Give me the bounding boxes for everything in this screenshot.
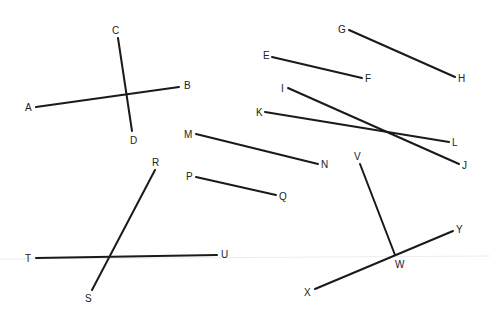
segment-kl (265, 112, 449, 142)
point-label-a: A (25, 102, 32, 113)
segment-mn (196, 134, 318, 164)
segment-ef (272, 57, 362, 78)
point-label-x: X (304, 287, 311, 298)
point-label-c: C (112, 25, 119, 36)
point-label-h: H (458, 73, 465, 84)
segment-ab (36, 87, 179, 107)
point-label-w: W (395, 259, 405, 270)
point-label-b: B (184, 80, 191, 91)
point-label-s: S (85, 293, 92, 304)
point-label-r: R (152, 157, 159, 168)
point-label-e: E (263, 50, 270, 61)
segment-cd (118, 38, 132, 131)
point-label-v: V (354, 151, 361, 162)
point-label-n: N (321, 159, 328, 170)
segment-vw (360, 164, 395, 255)
point-label-d: D (130, 135, 137, 146)
point-label-m: M (184, 129, 192, 140)
point-label-f: F (365, 73, 371, 84)
segment-pq (196, 177, 276, 195)
point-label-i: I (281, 83, 284, 94)
line-segments-diagram: ABCDEFGHIJKLMNPQRSTUVWXY (0, 0, 490, 317)
segment-ij (288, 88, 459, 164)
point-label-k: K (256, 107, 263, 118)
segments-group (36, 30, 459, 290)
segment-rs (92, 170, 155, 290)
point-label-g: G (338, 24, 346, 35)
segment-xy (315, 231, 453, 289)
point-label-y: Y (456, 224, 463, 235)
labels-group: ABCDEFGHIJKLMNPQRSTUVWXY (25, 24, 467, 304)
point-label-q: Q (279, 191, 287, 202)
point-label-j: J (462, 160, 467, 171)
point-label-u: U (221, 249, 228, 260)
point-label-l: L (452, 137, 458, 148)
point-label-p: P (186, 171, 193, 182)
segment-gh (349, 30, 455, 77)
point-label-t: T (25, 253, 31, 264)
